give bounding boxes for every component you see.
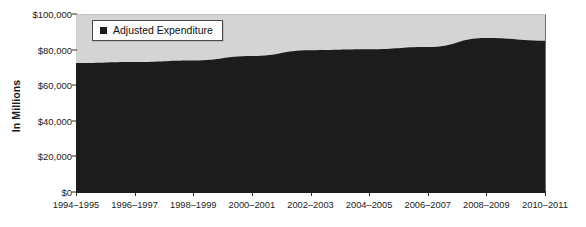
legend-swatch-icon: [100, 27, 107, 34]
x-tick-mark: [193, 191, 194, 196]
legend-label-adjusted-expenditure: Adjusted Expenditure: [113, 24, 213, 36]
area-series-adjusted-expenditure: [76, 15, 545, 193]
x-axis-tick-labels: 1994–19951996–19971998–19992000–20012002…: [0, 196, 586, 224]
x-tick-mark: [486, 191, 487, 196]
x-tick-mark: [135, 191, 136, 196]
chart-figure: In Millions $0$20,000$40,000$60,000$80,0…: [0, 0, 586, 227]
x-tick-mark: [369, 191, 370, 196]
y-axis-tick-labels: $0$20,000$40,000$60,000$80,000$100,000: [0, 0, 72, 227]
y-tick-mark: [72, 120, 77, 121]
x-tick-label: 2000–2001: [229, 200, 276, 210]
chart-legend: Adjusted Expenditure: [92, 20, 223, 41]
x-tick-label: 2004–2005: [346, 200, 393, 210]
x-tick-label: 2010–2011: [522, 200, 568, 210]
x-tick-label: 1996–1997: [111, 200, 158, 210]
x-tick-mark: [545, 191, 546, 196]
x-tick-label: 2002–2003: [287, 200, 334, 210]
y-tick-mark: [72, 156, 77, 157]
x-tick-label: 2008–2009: [463, 200, 510, 210]
x-tick-label: 2006–2007: [404, 200, 451, 210]
y-tick-mark: [72, 49, 77, 50]
x-tick-mark: [311, 191, 312, 196]
y-tick-mark: [72, 192, 77, 193]
x-tick-mark: [252, 191, 253, 196]
x-tick-label: 1994–1995: [53, 200, 100, 210]
y-tick-mark: [72, 85, 77, 86]
x-tick-label: 1998–1999: [170, 200, 217, 210]
y-tick-label: $80,000: [10, 44, 72, 55]
y-tick-label: $20,000: [10, 151, 72, 162]
area-fill: [76, 38, 545, 193]
x-tick-mark: [428, 191, 429, 196]
y-tick-label: $60,000: [10, 80, 72, 91]
y-tick-label: $100,000: [10, 9, 72, 20]
y-tick-label: $40,000: [10, 115, 72, 126]
y-tick-mark: [72, 14, 77, 15]
